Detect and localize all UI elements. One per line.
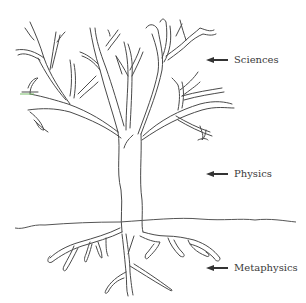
label-metaphysics: Metaphysics (206, 262, 298, 273)
ground-line (15, 218, 296, 228)
label-text: Metaphysics (234, 262, 298, 273)
trunk (118, 132, 143, 232)
label-physics: Physics (206, 168, 272, 179)
label-text: Physics (234, 168, 272, 179)
left-arrow-icon (206, 170, 228, 178)
branches-center (80, 28, 143, 132)
branches-right (138, 19, 234, 140)
label-text: Sciences (234, 54, 279, 65)
left-arrow-icon (206, 264, 228, 272)
roots (48, 228, 220, 296)
tree-diagram (0, 0, 306, 303)
branches-left (16, 22, 121, 138)
left-arrow-icon (206, 56, 228, 64)
label-sciences: Sciences (206, 54, 279, 65)
